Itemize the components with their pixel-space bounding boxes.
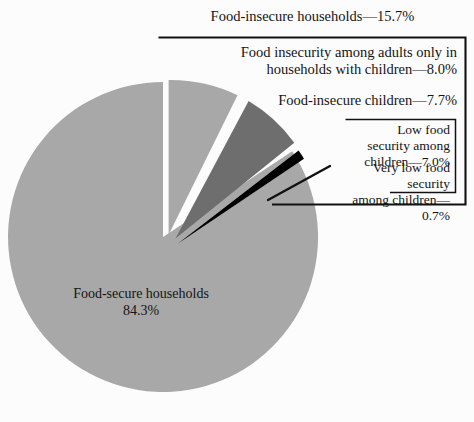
label-very-low-food-security-children: Very low food security among children—0.… — [338, 160, 450, 224]
pie-slice-food-secure-households — [8, 82, 318, 392]
label-food-insecure-households: Food-insecure households—15.7% — [160, 8, 465, 25]
label-food-secure-households: Food-secure households 84.3% — [36, 286, 246, 319]
pie-slice-very-low-food-security-children — [178, 151, 304, 244]
pie-slice-low-food-security-children — [176, 101, 295, 238]
leader-line-very-low-food-security — [268, 166, 330, 200]
label-food-insecure-children: Food-insecure children—7.7% — [180, 92, 457, 109]
pie-chart-figure: Food-insecure households—15.7% Food inse… — [0, 0, 474, 422]
label-food-insecurity-adults-only: Food insecurity among adults only in hou… — [172, 44, 457, 78]
